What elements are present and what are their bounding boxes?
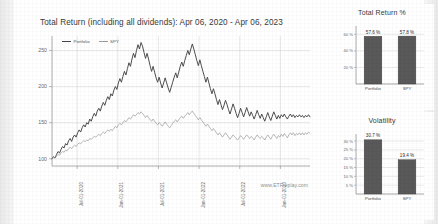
svg-text:30 %: 30 %: [343, 139, 353, 144]
bar-value-label: 30.7 %: [361, 133, 385, 138]
svg-text:20 %: 20 %: [343, 156, 353, 161]
svg-text:10 %: 10 %: [343, 174, 353, 179]
legend-item-spy: SPY: [99, 39, 119, 44]
volatility-panel: Volatility 5 %10 %15 %20 %25 %30 % 30.7 …: [330, 112, 434, 220]
x-axis-tick-label: Jan-01-2021: [119, 182, 124, 208]
bar-value-label: 19.4 %: [395, 153, 419, 158]
legend-label-spy: SPY: [110, 39, 119, 44]
svg-text:25 %: 25 %: [343, 147, 353, 152]
svg-text:150: 150: [38, 119, 47, 125]
volatility-title: Volatility: [330, 112, 434, 124]
main-chart-panel: Total Return (including all dividends): …: [14, 6, 324, 218]
legend-swatch-spy: [99, 41, 108, 42]
svg-text:60 %: 60 %: [343, 32, 353, 37]
bar-value-label: 57.8 %: [395, 30, 419, 35]
page-title: Total Return (including all dividends): …: [40, 18, 283, 27]
total-return-panel: Total Return % 20 %40 %60 % 57.6 %Portfo…: [330, 4, 434, 110]
line-chart-svg: 100150200250: [18, 30, 320, 180]
svg-text:20 %: 20 %: [343, 65, 353, 70]
line-plot-area: 100150200250: [18, 30, 320, 180]
svg-text:15 %: 15 %: [343, 165, 353, 170]
svg-text:200: 200: [38, 83, 47, 89]
x-axis-tick-label: Jan-01-2022: [201, 182, 206, 208]
total-return-plot-area: 20 %40 %60 % 57.6 %Portfolio57.8 %SPY: [334, 18, 430, 96]
x-axis-tick-label: Jul-01-2022: [241, 182, 246, 206]
svg-text:40 %: 40 %: [343, 48, 353, 53]
x-axis-tick-label: Jul-01-2020: [79, 182, 84, 206]
x-axis-tick-label: Jul-01-2021: [160, 182, 165, 206]
watermark-label: www.ETFreplay.com: [261, 182, 308, 188]
svg-text:100: 100: [38, 156, 47, 162]
page-edge-left: [0, 0, 14, 224]
svg-text:5 %: 5 %: [346, 183, 353, 188]
chart-legend: Portfolio SPY: [62, 39, 119, 44]
bar-category-label: SPY: [395, 196, 419, 201]
bar-category-label: Portfolio: [361, 86, 385, 91]
legend-label-portfolio: Portfolio: [74, 39, 90, 44]
legend-item-portfolio: Portfolio: [62, 39, 90, 44]
bar-category-label: Portfolio: [361, 196, 385, 201]
volatility-plot-area: 5 %10 %15 %20 %25 %30 % 30.7 %Portfolio1…: [334, 126, 430, 206]
x-axis-tick-labels: Jul-01-2020Jan-01-2021Jul-01-2021Jan-01-…: [18, 182, 320, 224]
legend-swatch-portfolio: [62, 41, 71, 42]
bar-category-label: SPY: [395, 86, 419, 91]
total-return-title: Total Return %: [330, 4, 434, 16]
svg-text:250: 250: [38, 47, 47, 53]
bar-value-label: 57.6 %: [361, 30, 385, 35]
